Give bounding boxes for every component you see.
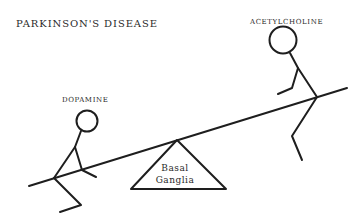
acetylcholine-body	[290, 53, 317, 97]
dopamine-label: DOPAMINE	[62, 96, 108, 104]
acetylcholine-head	[270, 27, 297, 54]
acetylcholine-leg	[292, 97, 317, 160]
fulcrum-label-line2: Ganglia	[156, 175, 195, 185]
seesaw-diagram: PARKINSON'S DISEASE ACETYLCHOLINE DOPAMI…	[0, 0, 364, 220]
dopamine-head	[77, 111, 98, 132]
dopamine-arm	[75, 147, 96, 177]
acetylcholine-stick-figure	[270, 27, 318, 161]
diagram-title: PARKINSON'S DISEASE	[16, 18, 158, 29]
acetylcholine-arm	[278, 68, 298, 94]
fulcrum-label-line1: Basal	[161, 163, 188, 173]
acetylcholine-label: ACETYLCHOLINE	[249, 18, 323, 26]
dopamine-leg	[54, 178, 81, 212]
dopamine-stick-figure	[54, 111, 98, 213]
